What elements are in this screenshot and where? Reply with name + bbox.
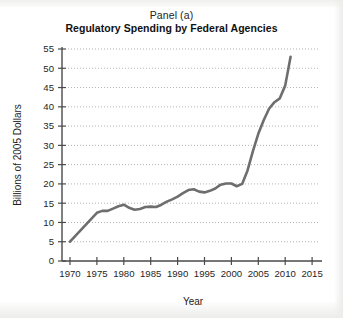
y-axis-tick-label: 20	[43, 178, 54, 189]
x-axis-tick-label: 2010	[275, 268, 296, 279]
y-axis-title: Billions of 2005 Dollars	[12, 104, 23, 206]
gridlines-group	[68, 49, 318, 242]
x-axis-tick-label: 2015	[301, 268, 322, 279]
x-axis-title: Year	[183, 296, 204, 307]
data-series-group	[70, 57, 291, 242]
x-axis-tick-label: 1995	[194, 268, 215, 279]
y-axis-tick-label: 55	[43, 43, 54, 54]
x-axis-tick-label: 2000	[221, 268, 242, 279]
data-series-line	[70, 57, 291, 242]
y-axis-tick-label: 15	[43, 198, 54, 209]
axis-lines-group	[62, 47, 322, 261]
y-axis-tick-label: 0	[49, 255, 54, 266]
y-axis-tick-label: 35	[43, 120, 54, 131]
x-axis-tick-label: 1980	[113, 268, 134, 279]
y-axis-tick-label: 25	[43, 159, 54, 170]
y-axis-tick-label: 50	[43, 63, 54, 74]
x-axis-tick-label: 1970	[59, 268, 80, 279]
x-axis-tick-label: 1985	[140, 268, 161, 279]
x-axis-tick-label: 2005	[248, 268, 269, 279]
chart-figure: Panel (a) Regulatory Spending by Federal…	[0, 0, 343, 318]
y-axis-tick-label: 10	[43, 217, 54, 228]
x-axis-tick-label: 1990	[167, 268, 188, 279]
x-axis-tick-label: 1975	[86, 268, 107, 279]
y-axis-tick-label: 45	[43, 82, 54, 93]
y-axis-tick-label: 40	[43, 101, 54, 112]
y-axis-tick-label: 30	[43, 140, 54, 151]
y-axis-tick-label: 5	[49, 236, 54, 247]
line-chart-plot: 0510152025303540455055 19701975198019851…	[0, 0, 343, 318]
